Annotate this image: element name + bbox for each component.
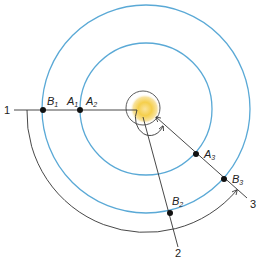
point-A3 (193, 151, 199, 157)
line-label-3: 3 (250, 198, 256, 210)
label-B1: B1 (47, 95, 58, 108)
line-label-2: 2 (175, 247, 181, 259)
label-A2: A2 (85, 95, 97, 108)
point-B3 (221, 176, 227, 182)
point-B2 (167, 210, 173, 216)
outer-angle-arc (27, 110, 237, 232)
line-label-1: 1 (4, 104, 10, 116)
line-3 (156, 117, 247, 198)
line-2 (143, 117, 178, 247)
label-A3: A3 (203, 148, 215, 161)
label-B3: B3 (232, 173, 243, 186)
point-B1 (40, 107, 46, 113)
label-B2: B2 (172, 195, 183, 208)
label-A1: A1 (66, 95, 78, 108)
orbit-diagram: B1 A1 A2 A3 B2 B3 1 2 3 (0, 0, 265, 263)
